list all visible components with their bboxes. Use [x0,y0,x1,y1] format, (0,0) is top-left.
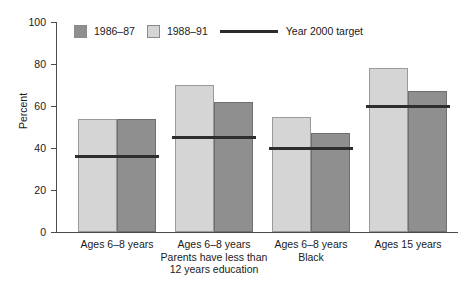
plot-area [56,22,458,232]
bar-1986-87 [117,119,156,232]
bar-1988-91 [272,117,311,233]
bar-1988-91 [369,68,408,232]
x-axis-line [56,232,458,233]
x-axis-category-label-line: Ages 15 years [348,238,468,251]
bar-chart: 1986–87 1988–91 Year 2000 target Percent… [0,0,468,287]
target-line-year-2000 [269,147,353,150]
bar-group [272,22,350,232]
y-axis-tick-label: 40 [8,143,46,153]
y-axis-tick-label: 20 [8,185,46,195]
x-axis-category-label-line: 12 years education [154,263,274,276]
target-line-year-2000 [75,155,159,158]
target-line-year-2000 [172,136,256,139]
y-axis-tick-label: 100 [8,17,46,27]
y-axis-tick-label: 80 [8,59,46,69]
bar-group [175,22,253,232]
target-line-year-2000 [366,105,450,108]
y-axis-tick-label: 0 [8,227,46,237]
bar-1986-87 [214,102,253,232]
x-axis-category-label: Ages 15 years [348,238,468,251]
bar-group [369,22,447,232]
bar-1988-91 [78,119,117,232]
bar-1986-87 [408,91,447,232]
bar-group [78,22,156,232]
x-axis-category-label-line: Black [251,251,371,264]
y-axis-tick-label: 60 [8,101,46,111]
bar-1988-91 [175,85,214,232]
